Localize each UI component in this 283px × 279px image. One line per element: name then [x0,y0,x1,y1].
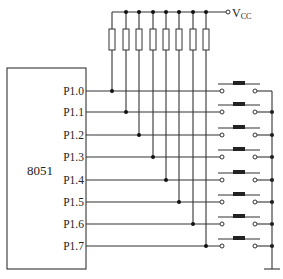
switch-terminal-right [253,200,257,204]
switch-terminal-right [253,178,257,182]
vcc-junction-dot [204,10,208,14]
pin-label: P1.2 [63,129,84,141]
switch-terminal-right [253,110,257,114]
switch-terminal-right [253,244,257,248]
switch-button-knob [233,125,245,129]
pullup-resistor [163,29,169,50]
pin-label: P1.3 [63,151,84,163]
vcc-junction-dot [137,10,141,14]
pullup-resistor [150,29,156,50]
schematic-canvas: 8051 VCC P1.0P1.1P1.2P1.3P1.4P1.5P1.6P1.… [0,0,283,279]
switch-button-knob [233,192,245,196]
switch-button-knob [233,81,245,85]
vcc-junction-dot [151,10,155,14]
switch-terminal-right [253,89,257,93]
pin-junction-dot [124,110,128,114]
switch-button-knob [233,147,245,151]
pin-junction-dot [177,200,181,204]
switch-terminal-right [253,133,257,137]
pullup-resistor [190,29,196,50]
pin-junction-dot [137,133,141,137]
vcc-junction-dot [164,10,168,14]
pin-junction-dot [110,89,114,93]
switch-terminal-left [220,89,224,93]
pullup-resistor [203,29,209,50]
vcc-junction-dot [124,10,128,14]
pin-junction-dot [204,244,208,248]
pin-junction-dot [164,178,168,182]
pin-label: P1.6 [63,218,84,230]
circuit-elements: P1.0P1.1P1.2P1.3P1.4P1.5P1.6P1.7 [63,10,280,269]
switch-terminal-right [253,155,257,159]
switch-terminal-left [220,244,224,248]
switch-button-knob [233,214,245,218]
switch-button-knob [233,236,245,240]
pin-label: P1.4 [63,174,84,186]
vcc-junction-dot [177,10,181,14]
switch-terminal-left [220,200,224,204]
pin-label: P1.7 [63,240,84,252]
pullup-resistor [123,29,129,50]
pullup-resistor [109,29,115,50]
chip-label: 8051 [27,163,53,178]
switch-terminal-left [220,155,224,159]
switch-terminal-left [220,178,224,182]
vcc-junction-dot [191,10,195,14]
pin-label: P1.1 [63,106,84,118]
pullup-resistor [136,29,142,50]
switch-terminal-left [220,222,224,226]
pin-label: P1.0 [63,85,84,97]
switch-button-knob [233,170,245,174]
pin-junction-dot [151,155,155,159]
pin-junction-dot [191,222,195,226]
switch-terminal-left [220,110,224,114]
pin-label: P1.5 [63,196,84,208]
vcc-label: VCC [232,6,251,21]
switch-button-knob [233,102,245,106]
switch-terminal-left [220,133,224,137]
vcc-terminal [226,10,230,14]
pullup-resistor [176,29,182,50]
keypad-circuit-diagram: 8051 VCC P1.0P1.1P1.2P1.3P1.4P1.5P1.6P1.… [0,0,283,279]
switch-terminal-right [253,222,257,226]
